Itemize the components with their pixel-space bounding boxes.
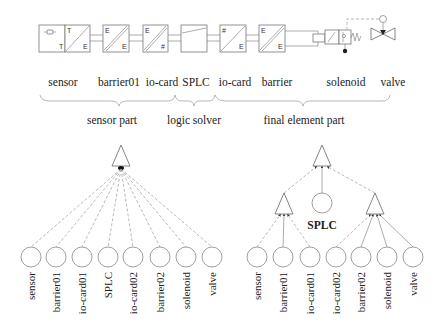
svg-text:barrier01: barrier01 <box>98 76 140 88</box>
block-io-card-in: E # <box>143 25 168 52</box>
block-sensor: T <box>39 25 65 52</box>
solenoid-dot-icon <box>343 49 347 53</box>
block-barrier01: T E <box>65 25 90 52</box>
svg-text:valve: valve <box>381 76 406 88</box>
svg-text:io-card01: io-card01 <box>76 272 88 314</box>
svg-text:SPLC: SPLC <box>307 219 336 231</box>
block-row: T T E E E E # <box>39 16 395 54</box>
reliability-diagram: T T E E E E # <box>0 0 444 335</box>
svg-text:E: E <box>122 43 127 50</box>
svg-text:E: E <box>105 27 110 34</box>
svg-text:SPLC: SPLC <box>182 76 210 88</box>
component-labels: sensor barrier01 io-card SPLC io-card ba… <box>48 76 405 88</box>
block-splc <box>181 25 207 52</box>
svg-text:barrier02: barrier02 <box>154 272 166 312</box>
svg-text:barrier: barrier <box>262 76 293 88</box>
svg-text:E: E <box>83 43 88 50</box>
svg-text:sensor: sensor <box>25 272 37 300</box>
svg-text:#: # <box>161 43 165 50</box>
block-io-card-out: # E <box>220 25 246 52</box>
svg-text:valve: valve <box>407 272 419 296</box>
left-fault-tree: sensor barrier01 io-card01 SPLC io-card0… <box>21 145 222 314</box>
svg-text:io-card02: io-card02 <box>330 272 342 314</box>
group-braces <box>40 95 390 106</box>
svg-text:T: T <box>59 43 64 50</box>
svg-text:solenoid: solenoid <box>180 272 192 310</box>
svg-text:barrier02: barrier02 <box>355 272 367 312</box>
right-fault-tree: SPLC sensor barrier01 io-card01 io-card0… <box>247 145 423 314</box>
svg-text:io-card01: io-card01 <box>304 272 316 314</box>
svg-text:solenoid: solenoid <box>381 272 393 310</box>
svg-text:logic solver: logic solver <box>167 114 221 127</box>
svg-text:E: E <box>239 43 244 50</box>
svg-text:#: # <box>222 27 226 34</box>
subgate-right-icon <box>366 193 384 214</box>
top-gate-icon <box>313 145 331 166</box>
block-io-card: E E <box>103 25 129 52</box>
group-labels: sensor part logic solver final element p… <box>87 114 345 127</box>
svg-text:solenoid: solenoid <box>327 76 366 88</box>
svg-text:sensor: sensor <box>251 272 263 300</box>
svg-text:sensor: sensor <box>48 76 78 88</box>
top-gate-icon <box>112 145 130 166</box>
svg-text:barrier01: barrier01 <box>277 272 289 312</box>
block-valve <box>347 16 395 41</box>
block-barrier: E E <box>259 25 285 52</box>
svg-text:valve: valve <box>206 272 218 296</box>
block-solenoid <box>313 30 361 53</box>
subgate-left-icon <box>275 193 293 214</box>
svg-text:io-card: io-card <box>146 76 179 88</box>
svg-text:T: T <box>67 27 72 34</box>
svg-text:SPLC: SPLC <box>102 272 114 298</box>
svg-text:final element part: final element part <box>263 114 345 127</box>
svg-text:E: E <box>261 27 266 34</box>
svg-text:E: E <box>278 43 283 50</box>
svg-text:io-card: io-card <box>219 76 252 88</box>
svg-text:io-card02: io-card02 <box>127 272 139 314</box>
svg-text:barrier01: barrier01 <box>50 272 62 312</box>
svg-text:sensor part: sensor part <box>87 114 138 127</box>
svg-text:E: E <box>145 27 150 34</box>
